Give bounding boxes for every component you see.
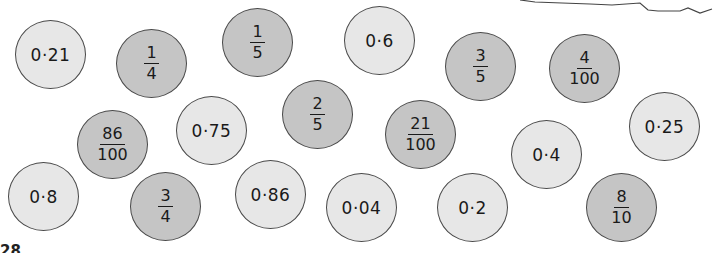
decimal-card: 0·8	[8, 162, 79, 231]
decimal-value: 0·6	[365, 31, 394, 51]
decimal-card: 0·2	[437, 173, 508, 242]
fraction: 34	[158, 188, 172, 225]
fraction-card: 34	[130, 172, 201, 241]
fraction-card: 14	[116, 29, 187, 98]
denominator: 100	[97, 145, 128, 163]
numerator: 86	[100, 126, 124, 145]
fraction: 35	[473, 48, 487, 85]
fraction: 21100	[405, 116, 436, 153]
numerator: 2	[310, 96, 324, 115]
denominator: 100	[405, 135, 436, 153]
denominator: 10	[611, 208, 631, 226]
denominator: 4	[146, 64, 156, 82]
decimal-value: 0·25	[645, 117, 685, 137]
fraction-card: 4100	[549, 34, 620, 103]
decimal-value: 0·04	[342, 198, 382, 218]
numerator: 3	[473, 48, 487, 67]
numerator: 1	[250, 24, 264, 43]
decimal-card: 0·25	[629, 92, 700, 161]
fraction-card: 15	[222, 8, 293, 77]
fraction-card: 86100	[77, 110, 148, 179]
fraction: 4100	[569, 50, 600, 87]
fraction: 25	[310, 96, 324, 133]
denominator: 5	[475, 67, 485, 85]
numerator: 8	[614, 189, 628, 208]
numerator: 21	[408, 116, 432, 135]
decimal-value: 0·75	[192, 121, 232, 141]
numerator: 1	[144, 45, 158, 64]
fraction: 14	[144, 45, 158, 82]
decimal-value: 0·86	[251, 185, 291, 205]
denominator: 5	[252, 43, 262, 61]
decimal-card: 0·6	[344, 6, 415, 75]
decimal-card: 0·75	[176, 96, 247, 165]
denominator: 100	[569, 69, 600, 87]
decimal-card: 0·86	[235, 160, 306, 229]
decimal-value: 0·8	[29, 187, 58, 207]
denominator: 5	[312, 115, 322, 133]
decimal-value: 0·2	[458, 198, 487, 218]
fraction-card: 21100	[385, 100, 456, 169]
fraction: 15	[250, 24, 264, 61]
torn-edge-line	[500, 0, 713, 25]
decimal-card: 0·21	[15, 20, 86, 89]
fraction-card: 25	[282, 80, 353, 149]
fraction-card: 35	[445, 32, 516, 101]
fraction-card: 810	[586, 173, 657, 242]
decimal-value: 0·4	[532, 145, 561, 165]
numerator: 4	[577, 50, 591, 69]
decimal-value: 0·21	[31, 45, 71, 65]
numerator: 3	[158, 188, 172, 207]
page-number-cutoff: 28	[0, 244, 21, 253]
fraction: 810	[611, 189, 631, 226]
decimal-card: 0·04	[326, 173, 397, 242]
decimal-card: 0·4	[511, 120, 582, 189]
fraction: 86100	[97, 126, 128, 163]
denominator: 4	[160, 207, 170, 225]
